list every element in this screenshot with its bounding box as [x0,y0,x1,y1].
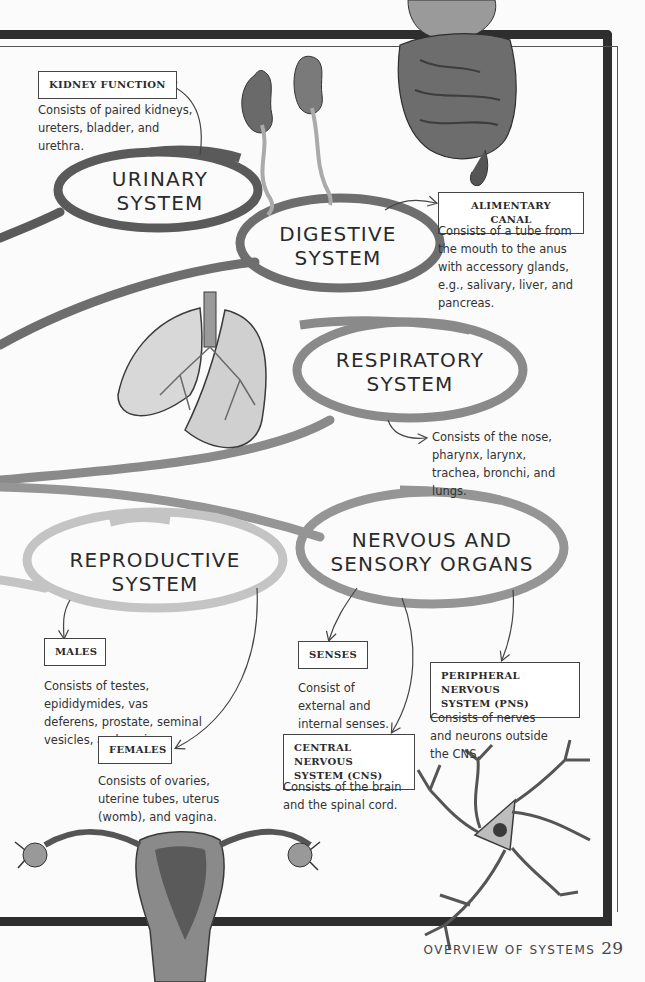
urinary-title-line1: URINARY [80,167,240,191]
neuron-illustration [418,740,590,950]
lungs-illustration [118,292,266,448]
reproductive-title-line1: REPRODUCTIVE [55,548,255,572]
digestive-description: Consists of a tube from the mouth to the… [438,222,578,312]
digestive-system-title: DIGESTIVE SYSTEM [258,222,418,270]
females-label: FEMALES [98,736,172,764]
senses-label: SENSES [298,641,368,669]
uterus-illustration [15,832,320,982]
respiratory-title-line2: SYSTEM [310,372,510,396]
reproductive-males-arrow [64,600,70,638]
respiratory-ring-tail [300,321,470,330]
cns-label-line1: CENTRAL NERVOUS [294,741,404,769]
page-footer: OVERVIEW OF SYSTEMS29 [424,938,623,958]
senses-description: Consist of external and internal senses. [298,679,403,733]
footer-title: OVERVIEW OF SYSTEMS [424,943,596,957]
urinary-description: Consists of paired kidneys, ureters, bla… [38,101,198,155]
reproductive-system-title: REPRODUCTIVE SYSTEM [55,548,255,596]
females-description: Consists of ovaries, uterine tubes, uter… [98,772,238,826]
nervous-title-line1: NERVOUS AND [322,528,542,552]
pns-description: Consists of nerves and neurons outside t… [430,709,560,763]
nervous-pns-arrow [502,590,513,660]
reproductive-ring-tail [110,518,170,522]
intestines-illustration [398,0,516,186]
urinary-flow-band [0,212,60,238]
urinary-system-title: URINARY SYSTEM [80,167,240,215]
respiratory-arrow [388,420,426,438]
digestive-title-line1: DIGESTIVE [258,222,418,246]
kidney-function-label: KIDNEY FUNCTION [38,71,177,99]
urinary-title-line2: SYSTEM [80,191,240,215]
cns-description: Consists of the brain and the spinal cor… [283,778,413,814]
respiratory-system-title: RESPIRATORY SYSTEM [310,348,510,396]
page-number: 29 [601,938,623,958]
respiratory-description: Consists of the nose, pharynx, larynx, t… [432,428,557,500]
respiratory-flow-band [0,420,330,480]
reproductive-title-line2: SYSTEM [55,572,255,596]
nervous-title-line2: SENSORY ORGANS [322,552,542,576]
digestive-flow-band [0,262,255,345]
males-label: MALES [44,638,106,666]
nervous-system-title: NERVOUS AND SENSORY ORGANS [322,528,542,576]
digestive-title-line2: SYSTEM [258,246,418,270]
respiratory-title-line1: RESPIRATORY [310,348,510,372]
pns-label-line1: PERIPHERAL NERVOUS [441,669,569,697]
